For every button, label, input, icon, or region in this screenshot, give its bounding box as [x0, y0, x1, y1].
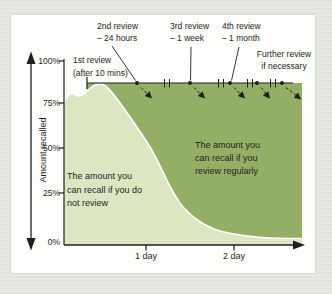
area-label-line: review regularly	[195, 165, 260, 178]
ytick-75: 75%	[28, 98, 60, 108]
area-label-line: can recall if you do	[67, 184, 142, 198]
xtick-2day: 2 day	[214, 251, 254, 261]
plot-areas	[64, 83, 302, 245]
annotation-4th-review: 4th review – 1 month	[222, 21, 261, 44]
annotation-line: – 1 month	[222, 33, 261, 45]
label-leader-lines	[112, 46, 239, 81]
page-background: { "colors": { "page_bg": "#e6e9e0", "car…	[0, 0, 332, 294]
area-label-line: can recall if you	[195, 152, 260, 165]
annotation-line: – 24 hours	[97, 33, 138, 45]
annotation-line: 1st review	[73, 54, 128, 67]
annotation-1st-review: 1st review (after 10 mins)	[73, 54, 128, 80]
ytick-50: 50%	[28, 143, 60, 153]
annotation-line: 4th review	[222, 21, 261, 33]
ytick-25: 25%	[28, 188, 60, 198]
annotation-3rd-review: 3rd review – 1 week	[170, 21, 209, 44]
annotation-line: if necessary	[252, 61, 316, 73]
review-area-label: The amount you can recall if you review …	[195, 139, 260, 178]
area-label-line: The amount you	[195, 139, 260, 152]
annotation-further-review: Further review if necessary	[252, 49, 316, 72]
annotation-line: 2nd review	[97, 21, 138, 33]
no-review-area-label: The amount you can recall if you do not …	[67, 170, 142, 211]
xtick-1day: 1 day	[126, 251, 166, 261]
ytick-0: 0%	[28, 237, 60, 247]
area-label-line: not review	[67, 197, 142, 211]
area-label-line: The amount you	[67, 170, 142, 184]
annotation-2nd-review: 2nd review – 24 hours	[97, 21, 138, 44]
annotation-line: 3rd review	[170, 21, 209, 33]
annotation-line: (after 10 mins)	[73, 67, 128, 80]
ytick-100: 100%	[28, 56, 60, 66]
annotation-line: – 1 week	[170, 33, 209, 45]
annotation-line: Further review	[252, 49, 316, 61]
